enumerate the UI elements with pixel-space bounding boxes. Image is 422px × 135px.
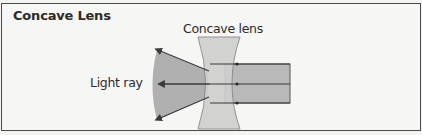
light-ray-label: Light ray — [90, 75, 143, 90]
concave-lens-label: Concave lens — [183, 21, 263, 36]
